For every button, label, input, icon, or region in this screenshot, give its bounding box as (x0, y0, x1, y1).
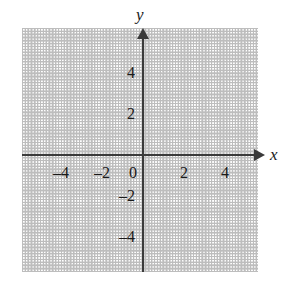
x-tick-label: 2 (180, 165, 188, 181)
grid-major (22, 28, 258, 272)
x-tick-label: 4 (221, 165, 229, 181)
y-axis-label: y (136, 6, 144, 23)
x-axis-line (22, 154, 256, 156)
y-tick-label: –2 (119, 188, 135, 204)
x-tick-label: –2 (94, 165, 110, 181)
y-tick-label: 2 (127, 106, 135, 122)
y-tick-label: 4 (127, 65, 135, 81)
y-axis-arrowhead-icon (137, 28, 149, 39)
coordinate-plane-figure: x y –4–2024 42–2–4 (0, 0, 292, 283)
y-axis-line (142, 35, 144, 272)
x-axis-arrowhead-icon (254, 149, 265, 161)
x-tick-label: –4 (53, 165, 69, 181)
y-tick-label: –4 (119, 229, 135, 245)
x-tick-label: 0 (129, 165, 137, 181)
x-axis-label: x (270, 146, 278, 163)
